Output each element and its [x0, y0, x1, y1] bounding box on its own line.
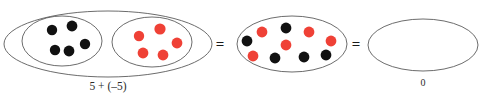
combined-counter-dot [281, 23, 292, 34]
combined-counter-dot [321, 50, 332, 61]
combined-counter-dot [299, 52, 310, 63]
figure-canvas: 5 + (–5) = = 0 [0, 0, 490, 100]
negative-counter-dot [134, 31, 144, 41]
positive-counter-dot [64, 46, 75, 57]
equals-sign-1: = [216, 36, 225, 52]
positive-counters-group [22, 16, 102, 66]
positive-counters-ellipse [22, 16, 102, 66]
combined-counter-dot [242, 36, 253, 47]
negative-counter-dot [154, 23, 165, 34]
combined-counter-dot [270, 53, 281, 64]
positive-counter-dot [67, 21, 78, 32]
negative-counters-group [112, 17, 192, 67]
equals-sign-2: = [352, 36, 361, 52]
negative-counter-dot [138, 48, 149, 59]
negative-counter-dot [158, 50, 169, 61]
zero-pair-figure: 5 + (–5) = = 0 [0, 0, 490, 100]
combined-counter-dot [326, 36, 337, 47]
negative-counter-dot [172, 38, 183, 49]
combined-counter-dot [248, 51, 259, 62]
positive-counter-dot [50, 45, 60, 55]
combined-counter-dot [281, 40, 292, 51]
positive-counter-dot [80, 39, 90, 49]
combined-group [237, 16, 347, 72]
result-caption: 0 [421, 77, 426, 88]
positive-counter-dot [47, 25, 57, 35]
result-outer-ellipse [368, 19, 478, 71]
combined-counter-dot [304, 27, 315, 38]
addends-group: 5 + (–5) [4, 11, 212, 93]
combined-counter-dot [257, 27, 268, 38]
addends-caption: 5 + (–5) [89, 80, 126, 93]
result-group: 0 [368, 19, 478, 88]
